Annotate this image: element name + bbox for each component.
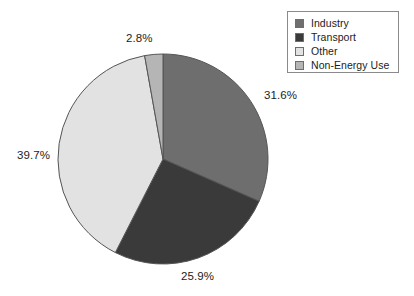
legend-item-label: Other: [311, 46, 338, 57]
legend-item-label: Industry: [311, 18, 349, 29]
legend-item[interactable]: Industry: [295, 17, 398, 30]
legend-swatch-icon: [295, 19, 304, 28]
legend-item[interactable]: Transport: [295, 31, 398, 44]
legend-item[interactable]: Non-Energy Use: [295, 59, 398, 72]
legend-item-label: Non-Energy Use: [311, 60, 389, 71]
slice-label-other: 39.7%: [17, 150, 50, 162]
legend-item[interactable]: Other: [295, 45, 398, 58]
pie-chart-figure: 2.8% 31.6% 39.7% 25.9% IndustryTransport…: [0, 0, 414, 296]
slice-label-transport: 25.9%: [181, 271, 214, 283]
chart-legend: IndustryTransportOtherNon-Energy Use: [287, 11, 399, 73]
slice-label-non-energy-use: 2.8%: [126, 33, 153, 45]
legend-swatch-icon: [295, 33, 304, 42]
slice-label-industry: 31.6%: [264, 90, 297, 102]
legend-swatch-icon: [295, 47, 304, 56]
legend-swatch-icon: [295, 61, 304, 70]
legend-item-label: Transport: [311, 32, 356, 43]
pie-slice-group: [58, 54, 268, 264]
